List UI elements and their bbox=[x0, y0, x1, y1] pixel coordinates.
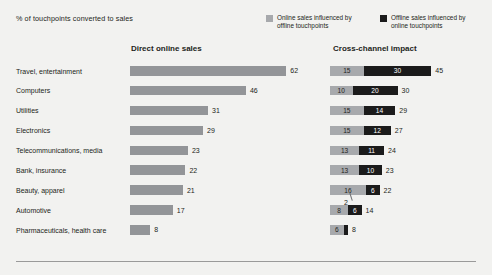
direct-online-sales-bar bbox=[130, 225, 150, 235]
cross-channel-bar-group: 102030 bbox=[330, 86, 409, 96]
segment-online-influenced: 15 bbox=[330, 106, 364, 116]
legend-label-online: Online sales influenced by offline touch… bbox=[277, 14, 355, 30]
direct-online-sales-value: 31 bbox=[212, 107, 220, 114]
cross-channel-bar-group: 131023 bbox=[330, 165, 394, 175]
legend-swatch-offline-icon bbox=[380, 15, 387, 22]
cross-channel-bar-group: 68 bbox=[330, 225, 356, 235]
chart-row: Electronics29151227 bbox=[0, 123, 492, 143]
segment-online-influenced: 10 bbox=[330, 86, 353, 96]
chart-row: Pharmaceuticals, health care868 bbox=[0, 222, 492, 242]
category-label: Utilities bbox=[16, 107, 39, 114]
direct-online-sales-bar-group: 31 bbox=[130, 106, 220, 116]
chart-row: Beauty, apparel2116622 bbox=[0, 182, 492, 202]
segment-offline-influenced: 10 bbox=[359, 165, 382, 175]
legend-label-offline: Offline sales influenced by online touch… bbox=[391, 14, 469, 30]
direct-online-sales-bar bbox=[130, 165, 185, 175]
direct-online-sales-bar-group: 46 bbox=[130, 86, 258, 96]
direct-online-sales-value: 22 bbox=[189, 167, 197, 174]
category-label: Telecommunications, media bbox=[16, 147, 102, 154]
direct-online-sales-bar-group: 22 bbox=[130, 165, 197, 175]
chart-row: Computers46102030 bbox=[0, 83, 492, 103]
segment-offline-influenced: 11 bbox=[359, 146, 384, 156]
direct-online-sales-bar bbox=[130, 66, 286, 76]
chart-row: Utilities31151429 bbox=[0, 103, 492, 123]
segment-online-influenced: 13 bbox=[330, 165, 359, 175]
cross-channel-total-value: 27 bbox=[395, 127, 403, 134]
legend-swatch-online-icon bbox=[266, 15, 273, 22]
legend-item-offline: Offline sales influenced by online touch… bbox=[380, 14, 469, 30]
category-label: Bank, insurance bbox=[16, 167, 66, 174]
direct-online-sales-bar-group: 21 bbox=[130, 185, 195, 195]
segment-online-influenced: 16 bbox=[330, 185, 366, 195]
direct-online-sales-bar bbox=[130, 146, 188, 156]
segment-offline-influenced: 14 bbox=[364, 106, 396, 116]
segment-offline-influenced: 6 bbox=[366, 185, 380, 195]
cross-channel-total-value: 23 bbox=[386, 167, 394, 174]
category-label: Automotive bbox=[16, 207, 51, 214]
direct-online-sales-bar bbox=[130, 106, 208, 116]
cross-channel-bar-group: 151429 bbox=[330, 106, 407, 116]
direct-online-sales-value: 29 bbox=[207, 127, 215, 134]
cross-channel-bar-group: 16622 bbox=[330, 185, 391, 195]
direct-online-sales-bar-group: 8 bbox=[130, 225, 158, 235]
direct-online-sales-bar bbox=[130, 205, 173, 215]
legend-item-online: Online sales influenced by offline touch… bbox=[266, 14, 355, 30]
cross-channel-total-value: 30 bbox=[402, 87, 410, 94]
cross-channel-total-value: 29 bbox=[399, 107, 407, 114]
direct-online-sales-value: 62 bbox=[290, 67, 298, 74]
category-label: Pharmaceuticals, health care bbox=[16, 227, 106, 234]
segment-offline-influenced bbox=[344, 225, 349, 235]
direct-online-sales-value: 8 bbox=[154, 226, 158, 233]
chart-row: Automotive178614 bbox=[0, 202, 492, 222]
cross-channel-total-value: 22 bbox=[384, 187, 392, 194]
segment-offline-influenced: 6 bbox=[348, 205, 362, 215]
direct-online-sales-bar-group: 23 bbox=[130, 146, 200, 156]
direct-online-sales-bar-group: 29 bbox=[130, 126, 215, 136]
category-label: Computers bbox=[16, 87, 50, 94]
chart-row: Telecommunications, media23131124 bbox=[0, 143, 492, 163]
section-title-cross-channel-impact: Cross-channel impact bbox=[333, 44, 417, 53]
category-label: Electronics bbox=[16, 127, 50, 134]
direct-online-sales-bar bbox=[130, 126, 203, 136]
direct-online-sales-bar bbox=[130, 185, 183, 195]
segment-online-influenced: 15 bbox=[330, 66, 364, 76]
chart-header: % of touchpoints converted to sales Onli… bbox=[0, 0, 492, 40]
segment-online-influenced: 15 bbox=[330, 126, 364, 136]
segment-offline-influenced: 30 bbox=[364, 66, 432, 76]
cross-channel-total-value: 24 bbox=[388, 147, 396, 154]
cross-channel-bar-group: 151227 bbox=[330, 126, 403, 136]
segment-offline-influenced: 20 bbox=[353, 86, 398, 96]
direct-online-sales-value: 23 bbox=[192, 147, 200, 154]
segment-online-influenced: 6 bbox=[330, 225, 344, 235]
category-label: Beauty, apparel bbox=[16, 187, 65, 194]
direct-online-sales-bar bbox=[130, 86, 246, 96]
cross-channel-total-value: 45 bbox=[435, 67, 443, 74]
direct-online-sales-value: 46 bbox=[250, 87, 258, 94]
chart-rows: Travel, entertainment62153045Computers46… bbox=[0, 63, 492, 242]
direct-online-sales-bar-group: 17 bbox=[130, 205, 185, 215]
direct-online-sales-value: 17 bbox=[177, 207, 185, 214]
cross-channel-bar-group: 131124 bbox=[330, 146, 396, 156]
category-label: Travel, entertainment bbox=[16, 68, 82, 75]
cross-channel-total-value: 14 bbox=[366, 207, 374, 214]
segment-online-influenced: 8 bbox=[330, 205, 348, 215]
cross-channel-bar-group: 8614 bbox=[330, 205, 373, 215]
chart-subtitle: % of touchpoints converted to sales bbox=[16, 14, 133, 23]
direct-online-sales-bar-group: 62 bbox=[130, 66, 298, 76]
segment-offline-influenced: 12 bbox=[364, 126, 391, 136]
chart-row: Bank, insurance22131023 bbox=[0, 162, 492, 182]
segment-online-influenced: 13 bbox=[330, 146, 359, 156]
footer-divider bbox=[16, 261, 476, 262]
section-title-direct-online-sales: Direct online sales bbox=[131, 44, 202, 53]
chart-row: Travel, entertainment62153045 bbox=[0, 63, 492, 83]
direct-online-sales-value: 21 bbox=[187, 187, 195, 194]
cross-channel-bar-group: 153045 bbox=[330, 66, 443, 76]
cross-channel-total-value: 8 bbox=[352, 226, 356, 233]
